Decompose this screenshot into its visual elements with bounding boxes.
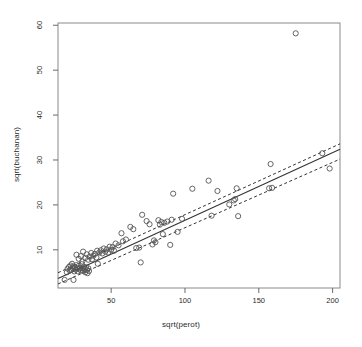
data-point-marker: [268, 161, 273, 166]
y-axis-tick-label: 40: [35, 103, 45, 127]
data-point-marker: [144, 218, 149, 223]
confidence-band-line: [58, 144, 340, 273]
data-point-marker: [119, 231, 124, 236]
data-point-marker: [140, 212, 145, 217]
x-axis-tick-label: 100: [173, 296, 197, 305]
data-point-marker: [293, 31, 298, 36]
plot-box-border: [58, 23, 340, 288]
y-axis-title: sqrt(buchanan): [12, 95, 21, 215]
y-axis-tick-label: 10: [35, 238, 45, 262]
data-point-marker: [179, 216, 184, 221]
x-axis-tick-label: 150: [247, 296, 271, 305]
data-point-marker: [62, 277, 67, 282]
x-axis-title: sqrt(perot): [0, 320, 362, 329]
data-point-marker: [171, 191, 176, 196]
data-point-marker: [160, 232, 165, 237]
y-axis-tick-label: 50: [35, 58, 45, 82]
data-point-marker: [71, 277, 76, 282]
data-point-marker: [147, 222, 152, 227]
data-point-marker: [327, 166, 332, 171]
data-point-marker: [138, 260, 143, 265]
x-axis-tick-label: 200: [321, 296, 345, 305]
data-point-marker: [206, 178, 211, 183]
data-point-marker: [168, 242, 173, 247]
plot-canvas: [0, 0, 362, 347]
data-point-marker: [236, 214, 241, 219]
data-point-marker: [231, 198, 236, 203]
data-point-marker: [190, 186, 195, 191]
scatter-plot-figure: sqrt(perot) sqrt(buchanan) 5010015020010…: [0, 0, 362, 347]
data-point-marker: [95, 261, 100, 266]
y-axis-tick-label: 20: [35, 193, 45, 217]
regression-fit-line: [58, 149, 340, 278]
data-point-marker: [234, 186, 239, 191]
data-point-marker: [209, 213, 214, 218]
y-axis-tick-label: 60: [35, 13, 45, 37]
data-point-marker: [81, 249, 86, 254]
x-axis-tick-label: 50: [99, 296, 123, 305]
data-point-marker: [227, 202, 232, 207]
data-point-marker: [215, 188, 220, 193]
y-axis-tick-label: 30: [35, 148, 45, 172]
